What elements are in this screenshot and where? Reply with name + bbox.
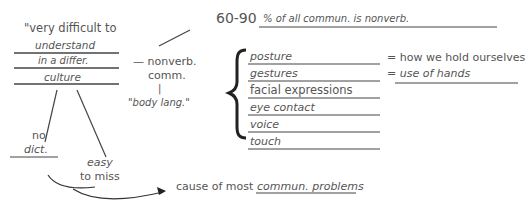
definition-posture: = how we hold ourselves [387, 52, 525, 63]
definition-gestures: = use of hands [387, 68, 470, 79]
arrow-head-icon [157, 187, 166, 195]
branch-no-dict-line1: no [32, 130, 46, 141]
conclusion-prefix: cause of most [176, 181, 253, 192]
list-item-eye-contact: eye contact [250, 102, 315, 113]
nonverbal-label: — nonverb. [133, 56, 196, 67]
branch-no-dict-line2: dict. [24, 144, 48, 155]
branch-line-right [77, 90, 106, 157]
branch-easy-line2: to miss [80, 171, 120, 182]
note-line: culture [44, 72, 81, 83]
body-language-alias: "body lang." [128, 98, 190, 108]
list-item-touch: touch [250, 136, 281, 147]
list-item-gestures: gestures [250, 68, 298, 79]
handwritten-notes-diagram: "very difficult to understand in a diffe… [0, 0, 527, 209]
note-line: "very difficult to [24, 23, 117, 35]
stat-value: 60-90 [216, 11, 257, 25]
nonverbal-label-2: comm. [148, 70, 186, 81]
list-item-facial-expressions: facial expressions [250, 85, 353, 97]
connector-mark: | [158, 84, 161, 94]
branch-easy-line1: easy [87, 157, 113, 168]
list-item-voice: voice [250, 119, 279, 130]
stat-description: % of all commun. is nonverb. [263, 14, 409, 24]
note-line: in a differ. [38, 56, 88, 66]
list-item-posture: posture [250, 51, 292, 62]
curly-brace-icon [229, 50, 246, 138]
connector-line [159, 30, 190, 46]
branch-line-left [45, 90, 57, 142]
conclusion-emphasis: commun. problems [257, 181, 364, 192]
arrow-line [73, 189, 163, 199]
note-line: understand [35, 40, 95, 51]
